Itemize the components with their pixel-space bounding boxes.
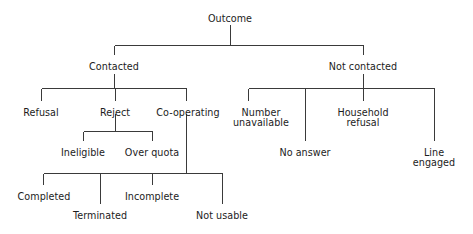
node-completed: Completed — [18, 192, 71, 203]
node-no-answer: No answer — [279, 148, 330, 159]
node-incomplete: Incomplete — [125, 192, 179, 203]
node-ineligible: Ineligible — [61, 148, 105, 159]
node-contacted: Contacted — [89, 62, 139, 73]
node-reject: Reject — [100, 108, 130, 119]
outcome-tree-diagram: Outcome Contacted Not contacted Refusal … — [0, 0, 473, 234]
node-number-unavailable: Number unavailable — [233, 108, 289, 129]
node-line-engaged-line2: engaged — [413, 158, 455, 168]
node-refusal: Refusal — [23, 108, 59, 119]
node-household-refusal: Household refusal — [337, 108, 388, 129]
node-number-unavailable-line2: unavailable — [233, 118, 289, 128]
node-terminated: Terminated — [73, 211, 127, 222]
node-line-engaged: Line engaged — [413, 148, 455, 169]
node-cooperating: Co-operating — [156, 108, 219, 119]
node-outcome: Outcome — [208, 14, 252, 25]
node-over-quota: Over quota — [125, 148, 179, 159]
node-household-refusal-line2: refusal — [337, 118, 388, 128]
node-not-contacted: Not contacted — [329, 62, 397, 73]
node-not-usable: Not usable — [196, 211, 248, 222]
